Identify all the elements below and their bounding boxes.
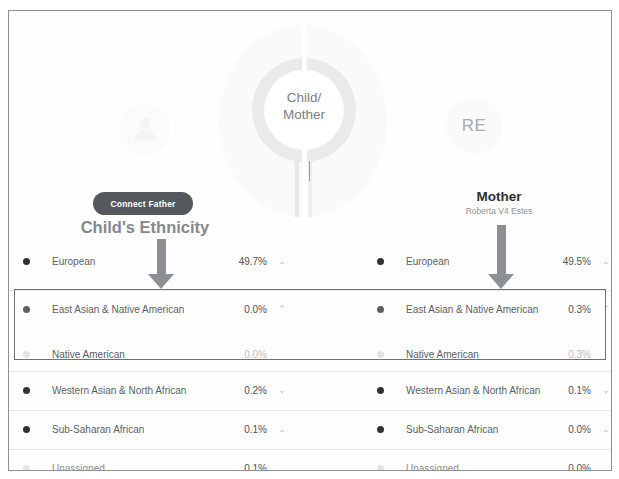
ethnicity-dot-icon bbox=[377, 306, 384, 313]
ethnicity-dot-icon bbox=[377, 465, 384, 472]
ethnicity-percent: 0.1% bbox=[211, 424, 267, 435]
mother-avatar[interactable]: RE bbox=[446, 98, 502, 154]
ethnicity-label: Native American bbox=[406, 349, 479, 360]
ethnicity-percent: 0.2% bbox=[211, 385, 267, 396]
row-cell-child-4[interactable]: Sub-Saharan African 0.1% ⌄ bbox=[15, 411, 303, 447]
center-node-line-2: Mother bbox=[264, 106, 344, 123]
center-node-line-1: Child/ bbox=[264, 89, 344, 106]
center-node-label[interactable]: Child/ Mother bbox=[264, 89, 344, 123]
ethnicity-label: Sub-Saharan African bbox=[406, 424, 498, 435]
ethnicity-dot-icon bbox=[23, 387, 30, 394]
ethnicity-label: Unassigned bbox=[406, 463, 459, 472]
ethnicity-percent: 49.5% bbox=[535, 256, 591, 267]
table-row: Sub-Saharan African 0.1% ⌄ Sub-Saharan A… bbox=[9, 410, 611, 446]
chevron-down-icon[interactable]: ⌄ bbox=[601, 257, 611, 266]
row-cell-child-2[interactable]: Native American 0.0% bbox=[15, 336, 303, 372]
chevron-down-icon[interactable]: ⌄ bbox=[277, 386, 287, 395]
ethnicity-dot-icon bbox=[377, 387, 384, 394]
ethnicity-label: European bbox=[406, 256, 449, 267]
chevron-down-icon[interactable]: ⌄ bbox=[277, 425, 287, 434]
row-cell-mother-4[interactable]: Sub-Saharan African 0.0% ⌄ bbox=[369, 411, 611, 447]
ethnicity-dot-icon bbox=[377, 426, 384, 433]
chevron-up-icon[interactable]: ⌃ bbox=[601, 305, 611, 314]
row-cell-mother-2[interactable]: Native American 0.3% bbox=[369, 336, 611, 372]
trunk-left bbox=[295, 159, 299, 217]
connect-father-button[interactable]: Connect Father bbox=[93, 192, 193, 215]
row-cell-mother-0[interactable]: European 49.5% ⌄ bbox=[369, 243, 611, 279]
ethnicity-label: East Asian & Native American bbox=[406, 304, 538, 315]
ethnicity-percent: 0.3% bbox=[535, 304, 591, 315]
table-row: Unassigned 0.1% Unassigned 0.0% bbox=[9, 449, 611, 471]
child-ethnicity-title: Child's Ethnicity bbox=[55, 218, 235, 237]
ethnicity-label: Native American bbox=[52, 349, 125, 360]
ethnicity-dot-icon bbox=[23, 306, 30, 313]
row-cell-mother-3[interactable]: Western Asian & North African 0.1% ⌄ bbox=[369, 372, 611, 408]
row-cell-mother-1[interactable]: East Asian & Native American 0.3% ⌃ bbox=[369, 291, 611, 327]
ethnicity-table: European 49.7% ⌄ European 49.5% ⌄ East A… bbox=[9, 243, 611, 471]
row-cell-child-1[interactable]: East Asian & Native American 0.0% ⌃ bbox=[15, 291, 303, 327]
trunk-tick-mark bbox=[309, 161, 310, 181]
pedigree-diagram: Child/ Mother RE Connect Father Child's … bbox=[9, 11, 611, 243]
table-row: Native American 0.0% Native American 0.3… bbox=[9, 336, 611, 372]
ethnicity-dot-icon bbox=[23, 258, 30, 265]
ethnicity-percent: 0.0% bbox=[535, 463, 591, 472]
chevron-down-icon[interactable]: ⌄ bbox=[601, 425, 611, 434]
chevron-up-icon[interactable]: ⌃ bbox=[277, 305, 287, 314]
ethnicity-dot-icon bbox=[23, 465, 30, 472]
ethnicity-dot-icon bbox=[377, 258, 384, 265]
table-row: East Asian & Native American 0.0% ⌃ East… bbox=[9, 290, 611, 326]
ethnicity-label: Western Asian & North African bbox=[52, 385, 186, 396]
ethnicity-dot-icon bbox=[23, 351, 30, 358]
avatar-initials: RE bbox=[462, 116, 487, 136]
chevron-down-icon[interactable]: ⌄ bbox=[601, 386, 611, 395]
screenshot-root: Child/ Mother RE Connect Father Child's … bbox=[0, 0, 619, 479]
ethnicity-dot-icon bbox=[23, 426, 30, 433]
ethnicity-percent: 0.0% bbox=[211, 304, 267, 315]
person-placeholder-icon bbox=[132, 117, 158, 141]
ethnicity-percent: 49.7% bbox=[211, 256, 267, 267]
chevron-down-icon[interactable]: ⌄ bbox=[277, 257, 287, 266]
ethnicity-percent: 0.1% bbox=[211, 463, 267, 472]
table-row: Western Asian & North African 0.2% ⌄ Wes… bbox=[9, 371, 611, 407]
mother-title: Mother bbox=[434, 189, 564, 204]
ethnicity-percent: 0.1% bbox=[535, 385, 591, 396]
ethnicity-dot-icon bbox=[377, 351, 384, 358]
ethnicity-label: East Asian & Native American bbox=[52, 304, 184, 315]
row-cell-mother-5[interactable]: Unassigned 0.0% bbox=[369, 450, 611, 471]
table-row: European 49.7% ⌄ European 49.5% ⌄ bbox=[9, 243, 611, 279]
ethnicity-percent: 0.3% bbox=[535, 349, 591, 360]
ethnicity-label: European bbox=[52, 256, 95, 267]
app-frame: Child/ Mother RE Connect Father Child's … bbox=[8, 10, 612, 471]
ethnicity-label: Western Asian & North African bbox=[406, 385, 540, 396]
row-cell-child-5[interactable]: Unassigned 0.1% bbox=[15, 450, 303, 471]
ethnicity-percent: 0.0% bbox=[535, 424, 591, 435]
mother-name-subtitle: Roberta V4 Estes bbox=[434, 206, 564, 216]
row-cell-child-3[interactable]: Western Asian & North African 0.2% ⌄ bbox=[15, 372, 303, 408]
ethnicity-label: Sub-Saharan African bbox=[52, 424, 144, 435]
father-avatar-placeholder[interactable] bbox=[119, 103, 171, 155]
row-cell-child-0[interactable]: European 49.7% ⌄ bbox=[15, 243, 303, 279]
ethnicity-label: Unassigned bbox=[52, 463, 105, 472]
ethnicity-percent: 0.0% bbox=[211, 349, 267, 360]
